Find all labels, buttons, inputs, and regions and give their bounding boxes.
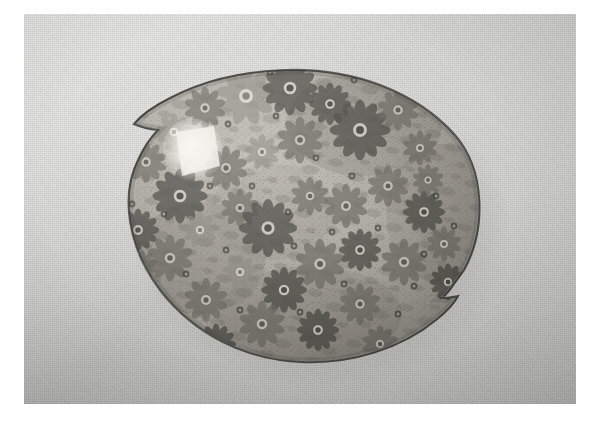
paper-margin-bottom: [0, 404, 600, 423]
screenshot-root: shallow oval ceramic dish / shell-form d…: [0, 0, 600, 423]
paper-margin-right: [576, 0, 600, 423]
dish-drawing: [24, 14, 576, 404]
photograph: [24, 14, 576, 404]
paper-margin-left: [0, 0, 24, 423]
ceramic-dish: [24, 14, 576, 404]
paper-margin-top: [0, 0, 600, 14]
